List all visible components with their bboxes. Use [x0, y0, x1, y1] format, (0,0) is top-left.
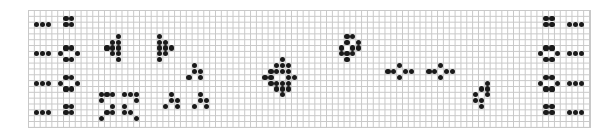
live-cell[interactable] [280, 57, 285, 62]
live-cell[interactable] [280, 92, 285, 97]
live-cell[interactable] [40, 110, 45, 115]
live-cell[interactable] [485, 86, 490, 91]
live-cell[interactable] [268, 81, 273, 86]
live-cell[interactable] [485, 92, 490, 97]
live-cell[interactable] [157, 40, 162, 45]
live-cell[interactable] [280, 69, 285, 74]
live-cell[interactable] [122, 104, 127, 109]
live-cell[interactable] [63, 57, 68, 62]
live-cell[interactable] [344, 34, 349, 39]
live-cell[interactable] [397, 63, 402, 68]
live-cell[interactable] [438, 75, 443, 80]
live-cell[interactable] [192, 63, 197, 68]
live-cell[interactable] [163, 51, 168, 56]
live-cell[interactable] [157, 45, 162, 50]
live-cell[interactable] [157, 34, 162, 39]
live-cell[interactable] [444, 69, 449, 74]
live-cell[interactable] [579, 51, 584, 56]
live-cell[interactable] [538, 51, 543, 56]
live-cell[interactable] [268, 69, 273, 74]
live-cell[interactable] [99, 116, 104, 121]
live-cell[interactable] [286, 69, 291, 74]
live-cell[interactable] [356, 40, 361, 45]
live-cell[interactable] [543, 110, 548, 115]
live-cell[interactable] [34, 22, 39, 27]
live-cell[interactable] [204, 98, 209, 103]
live-cell[interactable] [122, 92, 127, 97]
live-cell[interactable] [198, 75, 203, 80]
live-cell[interactable] [479, 98, 484, 103]
live-cell[interactable] [280, 86, 285, 91]
live-cell[interactable] [397, 75, 402, 80]
live-cell[interactable] [175, 98, 180, 103]
live-cell[interactable] [163, 40, 168, 45]
live-cell[interactable] [116, 45, 121, 50]
live-cell[interactable] [543, 86, 548, 91]
live-cell[interactable] [69, 104, 74, 109]
live-cell[interactable] [58, 81, 63, 86]
live-cell[interactable] [116, 57, 121, 62]
live-cell[interactable] [280, 81, 285, 86]
live-cell[interactable] [110, 45, 115, 50]
live-cell[interactable] [69, 22, 74, 27]
live-cell[interactable] [157, 51, 162, 56]
live-cell[interactable] [549, 86, 554, 91]
live-cell[interactable] [69, 16, 74, 21]
live-cell[interactable] [128, 110, 133, 115]
live-cell[interactable] [198, 92, 203, 97]
live-cell[interactable] [403, 69, 408, 74]
live-cell[interactable] [204, 104, 209, 109]
live-cell[interactable] [567, 51, 572, 56]
live-cell[interactable] [292, 75, 297, 80]
live-cell[interactable] [543, 104, 548, 109]
live-cell[interactable] [280, 63, 285, 68]
live-cell[interactable] [426, 69, 431, 74]
life-grid[interactable] [28, 10, 591, 128]
live-cell[interactable] [286, 81, 291, 86]
live-cell[interactable] [63, 86, 68, 91]
live-cell[interactable] [34, 51, 39, 56]
live-cell[interactable] [274, 69, 279, 74]
live-cell[interactable] [549, 45, 554, 50]
live-cell[interactable] [479, 104, 484, 109]
live-cell[interactable] [579, 22, 584, 27]
live-cell[interactable] [438, 63, 443, 68]
live-cell[interactable] [350, 51, 355, 56]
live-cell[interactable] [46, 22, 51, 27]
live-cell[interactable] [391, 69, 396, 74]
live-cell[interactable] [63, 104, 68, 109]
live-cell[interactable] [543, 45, 548, 50]
live-cell[interactable] [473, 98, 478, 103]
live-cell[interactable] [385, 69, 390, 74]
live-cell[interactable] [163, 45, 168, 50]
live-cell[interactable] [116, 34, 121, 39]
live-cell[interactable] [157, 57, 162, 62]
live-cell[interactable] [555, 51, 560, 56]
live-cell[interactable] [63, 16, 68, 21]
live-cell[interactable] [485, 81, 490, 86]
live-cell[interactable] [543, 22, 548, 27]
live-cell[interactable] [573, 81, 578, 86]
live-cell[interactable] [63, 22, 68, 27]
live-cell[interactable] [549, 110, 554, 115]
live-cell[interactable] [99, 92, 104, 97]
live-cell[interactable] [34, 81, 39, 86]
live-cell[interactable] [479, 86, 484, 91]
live-cell[interactable] [262, 75, 267, 80]
live-cell[interactable] [99, 98, 104, 103]
live-cell[interactable] [344, 40, 349, 45]
live-cell[interactable] [69, 45, 74, 50]
live-cell[interactable] [543, 57, 548, 62]
live-cell[interactable] [46, 51, 51, 56]
live-cell[interactable] [34, 110, 39, 115]
live-cell[interactable] [122, 110, 127, 115]
live-cell[interactable] [549, 75, 554, 80]
live-cell[interactable] [538, 81, 543, 86]
live-cell[interactable] [274, 86, 279, 91]
live-cell[interactable] [186, 75, 191, 80]
live-cell[interactable] [567, 110, 572, 115]
live-cell[interactable] [46, 81, 51, 86]
live-cell[interactable] [128, 92, 133, 97]
live-cell[interactable] [192, 104, 197, 109]
live-cell[interactable] [339, 51, 344, 56]
